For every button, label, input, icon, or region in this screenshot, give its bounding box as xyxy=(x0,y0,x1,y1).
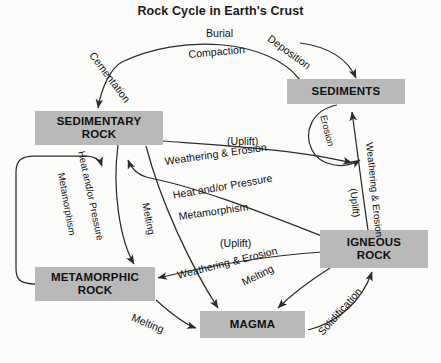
node-metamorphic-rock-line2: ROCK xyxy=(78,284,113,296)
node-sediments[interactable]: SEDIMENTS xyxy=(287,79,405,104)
edge-sedimentary-to-metamorphic xyxy=(116,145,134,264)
node-metamorphic-rock-line1: METAMORPHIC xyxy=(51,271,139,283)
label-uplift-lower: (Uplift) xyxy=(220,238,251,249)
node-sedimentary-rock-line2: ROCK xyxy=(82,128,117,140)
node-magma[interactable]: MAGMA xyxy=(200,311,305,338)
node-igneous-rock-line1: IGNEOUS xyxy=(347,236,401,248)
node-igneous-rock-line2: ROCK xyxy=(357,249,392,261)
edge-igneous-to-sedimentary xyxy=(128,160,327,238)
label-burial: Burial xyxy=(206,28,233,39)
node-sedimentary-rock[interactable]: SEDIMENTARY ROCK xyxy=(35,111,163,145)
node-metamorphic-rock[interactable]: METAMORPHIC ROCK xyxy=(35,267,155,301)
node-sedimentary-rock-line1: SEDIMENTARY xyxy=(57,115,142,127)
node-sediments-line1: SEDIMENTS xyxy=(312,85,381,98)
label-uplift-right: (Uplift) xyxy=(348,188,361,218)
rock-cycle-diagram: Rock Cycle in Earth's Crust xyxy=(0,0,441,363)
edge-sedimentary-to-magma xyxy=(146,146,218,308)
node-magma-line1: MAGMA xyxy=(230,318,276,331)
edge-igneous-to-magma xyxy=(278,268,330,308)
